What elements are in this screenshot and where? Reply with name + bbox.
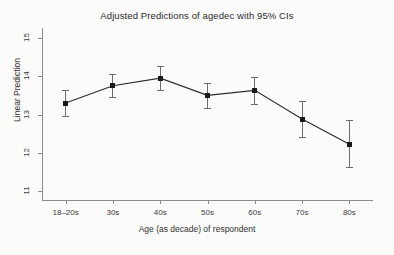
x-tick-label: 18–20s	[39, 208, 93, 217]
x-tick-label: 60s	[228, 208, 282, 217]
confidence-interval-cap	[109, 97, 116, 98]
confidence-interval-cap	[299, 101, 306, 102]
data-point-marker	[252, 88, 257, 93]
data-point-marker	[347, 142, 352, 147]
confidence-interval-cap	[251, 77, 258, 78]
confidence-interval-cap	[157, 90, 164, 91]
data-point-marker	[63, 101, 68, 106]
y-tick-label: 14	[22, 66, 31, 86]
y-tick-label: 15	[22, 27, 31, 47]
x-tick-label: 50s	[181, 208, 235, 217]
confidence-interval-cap	[204, 83, 211, 84]
data-point-marker	[110, 83, 115, 88]
confidence-interval-cap	[299, 137, 306, 138]
data-point-marker	[158, 76, 163, 81]
y-tick-label: 13	[22, 104, 31, 124]
x-tick-label: 30s	[86, 208, 140, 217]
x-tick-label: 80s	[322, 208, 376, 217]
series-line	[42, 28, 373, 201]
confidence-interval-cap	[251, 104, 258, 105]
confidence-interval-cap	[109, 74, 116, 75]
confidence-interval-cap	[62, 90, 69, 91]
chart-figure: Adjusted Predictions of agedec with 95% …	[0, 0, 394, 255]
y-axis-title: Linear Prediction	[12, 58, 22, 122]
confidence-interval-cap	[346, 167, 353, 168]
data-point-marker	[300, 117, 305, 122]
y-tick-label: 12	[22, 142, 31, 162]
y-tick-label: 11	[22, 181, 31, 201]
x-tick-label: 70s	[275, 208, 329, 217]
data-point-marker	[205, 93, 210, 98]
confidence-interval-cap	[62, 116, 69, 117]
confidence-interval-cap	[346, 120, 353, 121]
x-tick-label: 40s	[133, 208, 187, 217]
confidence-interval-cap	[204, 108, 211, 109]
confidence-interval-cap	[157, 66, 164, 67]
chart-title: Adjusted Predictions of agedec with 95% …	[0, 10, 394, 21]
plot-area: 1112131415 18–20s30s40s50s60s70s80s	[42, 28, 372, 200]
x-axis-title: Age (as decade) of respondent	[0, 224, 394, 234]
